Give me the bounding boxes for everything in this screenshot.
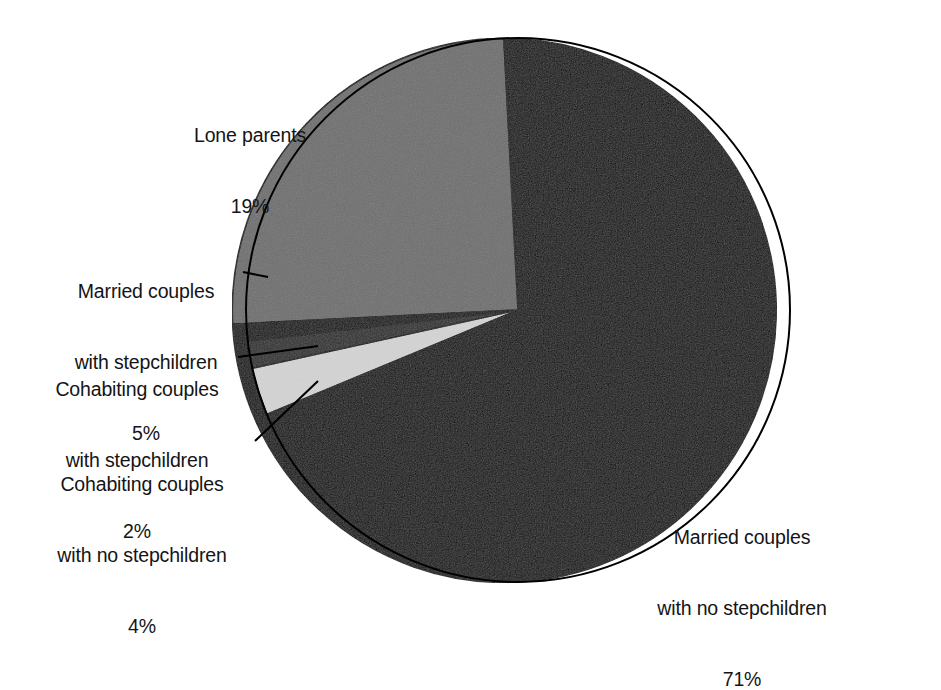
slice-label-married-no-stepchildren: Married couples with no stepchildren 71%	[602, 478, 882, 690]
slice-label-line1: Married couples	[602, 526, 882, 550]
slice-label-percent: 4%	[8, 615, 276, 639]
slice-label-line1: Cohabiting couples	[6, 378, 268, 402]
slice-label-percent: 19%	[120, 195, 380, 219]
slice-label-percent: 71%	[602, 668, 882, 690]
slice-label-line2: with no stepchildren	[8, 544, 276, 568]
slice-label-line1: Lone parents	[120, 124, 380, 148]
slice-label-line1: Cohabiting couples	[8, 473, 276, 497]
slice-label-line1: Married couples	[28, 280, 264, 304]
slice-label-cohabiting-no-stepchildren: Cohabiting couples with no stepchildren …	[8, 425, 276, 687]
slice-label-line2: with no stepchildren	[602, 597, 882, 621]
